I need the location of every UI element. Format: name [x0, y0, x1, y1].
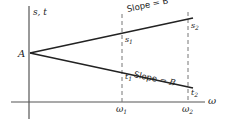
- slope-diagram: s, t A Slope = B s1 s2 Slope = B t1 t2 ω…: [0, 0, 228, 123]
- omega2-tick-label: ω2: [182, 105, 193, 115]
- omega1-tick-label: ω1: [116, 105, 127, 115]
- x-axis-label: ω: [208, 96, 216, 106]
- t2-sub: 2: [194, 91, 198, 98]
- t1-sub: 1: [128, 75, 132, 82]
- s1-sub: 1: [129, 38, 133, 45]
- diagram-graphics: [0, 0, 228, 123]
- point-a-label: A: [18, 49, 25, 59]
- s1-label: s1: [125, 36, 133, 45]
- s2-label: s2: [191, 22, 199, 31]
- omega2-sub: 2: [189, 108, 193, 115]
- point-a-text: A: [18, 48, 25, 59]
- y-axis-label: s, t: [33, 8, 47, 17]
- omega1-sub: 1: [123, 108, 127, 115]
- t1-label: t1: [125, 73, 132, 82]
- y-axis-label-text: s, t: [33, 7, 47, 17]
- s2-sub: 2: [195, 24, 199, 31]
- x-axis-label-text: ω: [208, 95, 216, 106]
- upper-line-s: [30, 18, 193, 53]
- t2-label: t2: [191, 89, 198, 98]
